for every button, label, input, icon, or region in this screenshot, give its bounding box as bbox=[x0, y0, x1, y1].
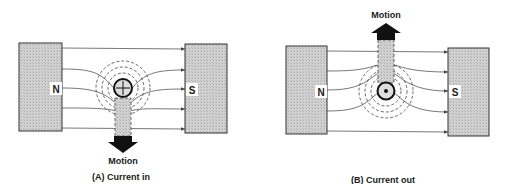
motion-trail bbox=[115, 98, 131, 136]
conductor-current-in-icon bbox=[114, 79, 132, 97]
motion-label: Motion bbox=[108, 156, 138, 166]
caption: (B) Current out bbox=[351, 175, 415, 184]
conductor-current-out-icon bbox=[378, 83, 395, 100]
motion-arrow-down-icon bbox=[108, 136, 138, 153]
diagram-current-in: N S Motion (A) Current in bbox=[19, 43, 227, 182]
north-pole-label: N bbox=[52, 84, 59, 95]
motor-principle-diagram: N S Motion (A) Current in N S M bbox=[0, 0, 507, 184]
south-pole-label: S bbox=[452, 87, 459, 98]
motion-label: Motion bbox=[371, 10, 401, 20]
south-pole-label: S bbox=[189, 85, 196, 96]
motion-arrow-up-icon bbox=[371, 23, 401, 40]
caption: (A) Current in bbox=[92, 172, 150, 182]
motion-trail bbox=[378, 40, 394, 83]
north-pole-label: N bbox=[317, 87, 324, 98]
diagram-current-out: N S Motion (B) Current out bbox=[286, 10, 489, 184]
